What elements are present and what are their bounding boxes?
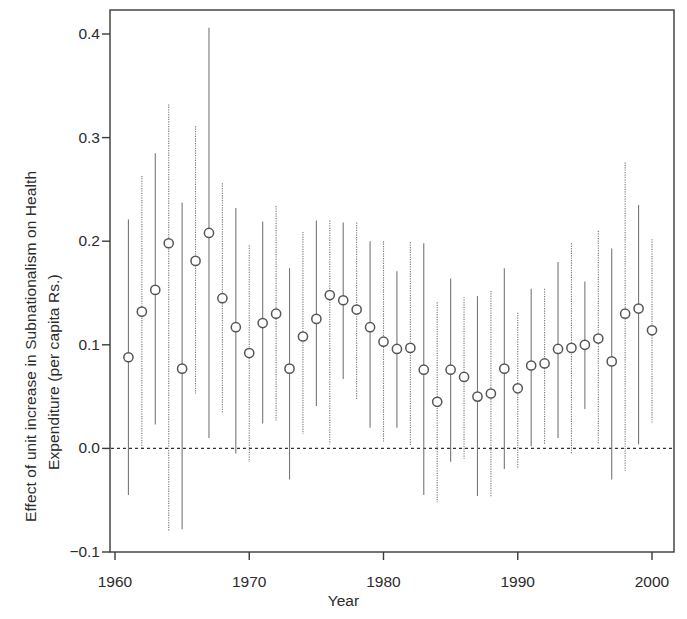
- plot-frame: [110, 10, 674, 552]
- data-point-marker: [607, 357, 616, 366]
- data-point-marker: [433, 397, 442, 406]
- data-point-marker: [392, 344, 401, 353]
- data-point-marker: [325, 290, 334, 299]
- data-point-marker: [218, 294, 227, 303]
- data-point-marker: [352, 305, 361, 314]
- data-point-marker: [513, 384, 522, 393]
- data-point-marker: [191, 256, 200, 265]
- chart-figure: Effect of unit increase in Subnationalis…: [0, 0, 687, 619]
- data-point-marker: [621, 309, 630, 318]
- data-point-marker: [258, 318, 267, 327]
- data-point-marker: [272, 309, 281, 318]
- data-points: [124, 28, 657, 531]
- data-point-marker: [204, 228, 213, 237]
- data-point-marker: [486, 389, 495, 398]
- data-point-marker: [298, 332, 307, 341]
- data-point-marker: [406, 343, 415, 352]
- data-point-marker: [379, 337, 388, 346]
- data-point-marker: [365, 323, 374, 332]
- data-point-marker: [124, 353, 133, 362]
- data-point-marker: [178, 364, 187, 373]
- plot-area: [0, 0, 687, 619]
- data-point-marker: [580, 340, 589, 349]
- data-point-marker: [567, 343, 576, 352]
- data-point-marker: [634, 304, 643, 313]
- data-point-marker: [473, 392, 482, 401]
- data-point-marker: [446, 365, 455, 374]
- data-point-marker: [540, 359, 549, 368]
- data-point-marker: [459, 372, 468, 381]
- data-point-marker: [231, 323, 240, 332]
- data-point-marker: [419, 365, 428, 374]
- data-point-marker: [312, 314, 321, 323]
- data-point-marker: [527, 361, 536, 370]
- data-point-marker: [285, 364, 294, 373]
- data-point-marker: [553, 344, 562, 353]
- data-point-marker: [137, 307, 146, 316]
- data-point-marker: [500, 364, 509, 373]
- data-point-marker: [245, 348, 254, 357]
- data-point-marker: [339, 296, 348, 305]
- data-point-marker: [647, 326, 656, 335]
- data-point-marker: [151, 285, 160, 294]
- data-point-marker: [594, 334, 603, 343]
- data-point-marker: [164, 239, 173, 248]
